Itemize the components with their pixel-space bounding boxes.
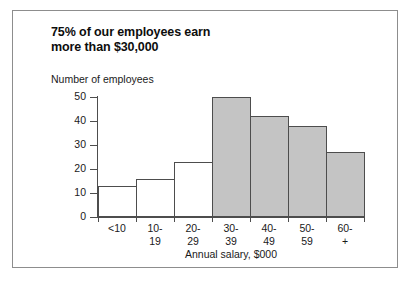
x-category-label: 10-19 — [136, 222, 174, 247]
y-tick-mark — [90, 145, 97, 146]
chart-frame: 75% of our employees earn more than $30,… — [12, 10, 398, 268]
x-category-label-line-1: 10- — [147, 222, 162, 234]
y-tick-mark — [90, 121, 97, 122]
x-axis-title: Annual salary, $000 — [98, 248, 364, 260]
bar-40-49 — [250, 116, 289, 217]
x-category-label: 50-59 — [288, 222, 326, 247]
x-category-label-line-1: 60- — [337, 222, 352, 234]
x-category-label: 40-49 — [250, 222, 288, 247]
chart-title: 75% of our employees earn more than $30,… — [51, 25, 351, 55]
x-category-label-line-1: 50- — [299, 222, 314, 234]
x-category-label-line-2: 39 — [212, 235, 250, 248]
x-category-label-line-2 — [98, 235, 136, 248]
chart-title-line-1: 75% of our employees earn — [51, 25, 351, 40]
y-tick-mark — [90, 217, 97, 218]
y-tick-label: 10 — [62, 186, 86, 198]
x-category-label: 20-29 — [174, 222, 212, 247]
bar-<10 — [98, 186, 137, 217]
bar-20-29 — [174, 162, 213, 217]
x-category-label-line-2: 49 — [250, 235, 288, 248]
y-axis-title: Number of employees — [51, 73, 154, 85]
y-tick-label: 20 — [62, 162, 86, 174]
bar-50-59 — [288, 126, 327, 217]
x-category-label: 60-+ — [326, 222, 364, 247]
x-category-label-line-2: + — [326, 235, 364, 248]
chart-title-line-2: more than $30,000 — [51, 40, 351, 55]
y-tick-mark — [90, 193, 97, 194]
y-tick-label: 30 — [62, 138, 86, 150]
x-category-label-line-2: 19 — [136, 235, 174, 248]
x-category-label-line-2: 29 — [174, 235, 212, 248]
x-category-label-line-1: 20- — [185, 222, 200, 234]
x-category-label-line-1: 40- — [261, 222, 276, 234]
x-category-label-line-1: <10 — [108, 222, 126, 234]
x-category-label-line-2: 59 — [288, 235, 326, 248]
y-tick-label: 50 — [62, 90, 86, 102]
plot-area — [98, 97, 364, 217]
x-axis-category-labels: <10 10-1920-2930-3940-4950-5960-+ — [98, 222, 364, 247]
bar-10-19 — [136, 179, 175, 217]
y-tick-mark — [90, 169, 97, 170]
y-tick-mark — [90, 97, 97, 98]
x-category-label: 30-39 — [212, 222, 250, 247]
y-tick-label: 40 — [62, 114, 86, 126]
bar-series — [98, 97, 364, 217]
bar-30-39 — [212, 97, 251, 217]
x-category-label: <10 — [98, 222, 136, 247]
x-tick-mark — [364, 217, 365, 222]
y-tick-label: 0 — [62, 210, 86, 222]
bar-60-+ — [326, 152, 365, 217]
x-category-label-line-1: 30- — [223, 222, 238, 234]
